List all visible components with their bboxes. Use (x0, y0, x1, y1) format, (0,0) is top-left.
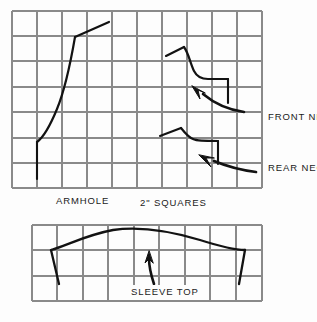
sleeve-top-label: SLEEVE TOP (128, 285, 202, 300)
squares-label: 2" SQUARES (137, 196, 210, 211)
armhole-label: ARMHOLE (56, 196, 109, 206)
pattern-diagram-figure: ARMHOLE 2" SQUARES FRONT NECK REAR NECK … (0, 0, 317, 322)
front-neck-label: FRONT NECK (265, 110, 317, 125)
rear-neck-label: REAR NECK (265, 161, 317, 176)
